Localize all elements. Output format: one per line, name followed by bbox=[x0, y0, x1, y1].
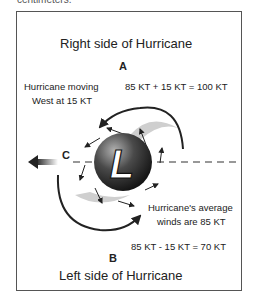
west-arrow-head bbox=[28, 155, 38, 169]
lower-rain-band bbox=[75, 192, 130, 203]
left-side-equation: 85 KT - 15 KT = 70 KT bbox=[131, 241, 226, 252]
average-winds-line1: Hurricane's average bbox=[148, 202, 233, 213]
west-arrow-shaft bbox=[36, 159, 58, 165]
average-winds-line2: winds are 85 KT bbox=[157, 216, 226, 227]
point-a-label: A bbox=[119, 60, 127, 72]
point-c-label: C bbox=[62, 149, 70, 161]
center-letter-l: L bbox=[110, 142, 134, 186]
movement-text-line2: West at 15 KT bbox=[32, 95, 92, 106]
point-b-label: B bbox=[109, 252, 117, 264]
right-side-title: Right side of Hurricane bbox=[60, 36, 192, 51]
right-side-equation: 85 KT + 15 KT = 100 KT bbox=[125, 81, 228, 92]
left-side-title: Left side of Hurricane bbox=[59, 268, 183, 283]
movement-text-line1: Hurricane moving bbox=[24, 81, 98, 92]
